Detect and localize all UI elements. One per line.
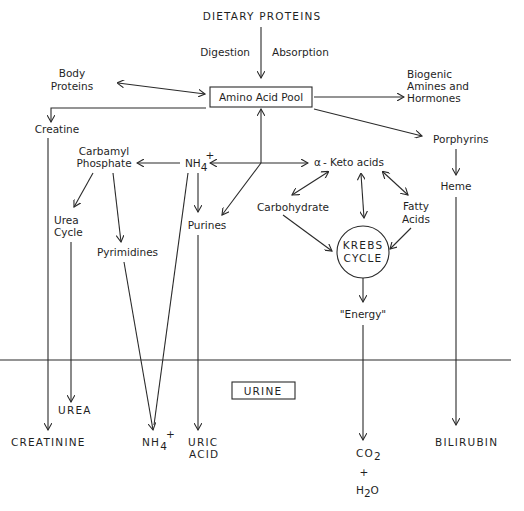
keto-carbohydrate-arrow	[292, 172, 328, 195]
hub-to-purines-arrow	[222, 163, 261, 215]
fatty-to-krebs-arrow	[390, 228, 411, 249]
body-proteins-arrow	[118, 83, 205, 94]
carbamyl-to-urea-cycle-arrow	[74, 173, 93, 207]
porphyrins-arrow	[314, 109, 422, 136]
krebs-label-2: CYCLE	[344, 252, 383, 264]
nh4-to-urine-line	[154, 173, 188, 425]
body-proteins-label-2: Proteins	[51, 80, 93, 92]
amino-acid-pool-label: Amino Acid Pool	[219, 91, 303, 103]
carbohydrate-to-krebs-arrow	[283, 215, 332, 251]
carbamyl-label-2: Phosphate	[76, 157, 131, 169]
creatinine-label: CREATININE	[11, 436, 86, 448]
biogenic-label-2: Amines and	[407, 80, 469, 92]
heme-label: Heme	[440, 180, 471, 192]
dietary-proteins-label: DIETARY PROTEINS	[203, 10, 322, 22]
keto-fatty-arrow	[383, 172, 408, 195]
urea-label: UREA	[58, 404, 92, 416]
purines-label: Purines	[188, 219, 227, 231]
absorption-label: Absorption	[272, 46, 329, 58]
pyrimidines-label: Pyrimidines	[97, 246, 158, 258]
creatine-label: Creatine	[35, 123, 79, 135]
pyrimidines-to-nh4-arrow	[124, 262, 153, 430]
fatty-acids-label-2: Acids	[402, 213, 430, 225]
uric-acid-label-1: URIC	[188, 436, 218, 448]
krebs-label-1: KREBS	[343, 239, 384, 251]
co2-label: CO2	[356, 447, 382, 462]
plus-label: +	[360, 466, 369, 478]
nh4-label: NH4+	[185, 149, 214, 173]
porphyrins-label: Porphyrins	[433, 133, 489, 145]
carbohydrate-label: Carbohydrate	[257, 201, 329, 213]
keto-krebs-arrow	[361, 174, 364, 218]
biogenic-label-1: Biogenic	[407, 68, 452, 80]
urea-cycle-label-2: Cycle	[54, 226, 83, 238]
carbamyl-label-1: Carbamyl	[79, 145, 130, 157]
nh4-urine-label: NH4+	[142, 428, 176, 452]
uric-acid-label-2: ACID	[189, 448, 219, 460]
carbamyl-to-pyrimidines-arrow	[113, 173, 121, 242]
protein-metabolism-diagram: DIETARY PROTEINS Digestion Absorption Am…	[0, 0, 524, 511]
digestion-label: Digestion	[200, 46, 250, 58]
biogenic-label-3: Hormones	[407, 92, 461, 104]
h2o-label: H2O	[356, 484, 379, 499]
energy-label: "Energy"	[340, 308, 386, 320]
creatine-arrow	[51, 108, 206, 122]
bilirubin-label: BILIRUBIN	[435, 436, 498, 448]
urine-label: URINE	[244, 385, 283, 397]
body-proteins-label-1: Body	[59, 67, 86, 79]
urea-cycle-label-1: Urea	[54, 214, 79, 226]
keto-acids-label: α- Keto acids	[314, 156, 384, 168]
fatty-acids-label-1: Fatty	[403, 200, 429, 212]
